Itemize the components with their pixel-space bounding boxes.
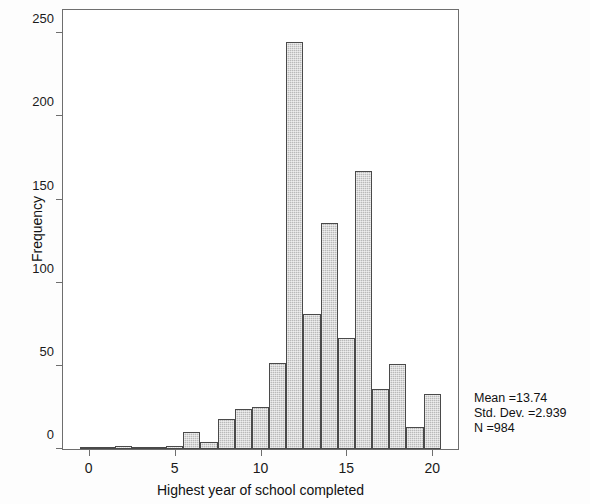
y-axis-title: Frequency bbox=[29, 196, 45, 262]
x-axis-tick-label: 10 bbox=[253, 460, 269, 476]
histogram-bar bbox=[97, 447, 114, 449]
histogram-bar bbox=[115, 446, 132, 449]
y-axis-tick-label: 150 bbox=[32, 177, 54, 192]
histogram-bar bbox=[372, 389, 389, 449]
histogram-bar bbox=[406, 427, 423, 449]
histogram-bar bbox=[132, 447, 149, 449]
histogram-figure: 05010015020025005101520 Highest year of … bbox=[0, 0, 590, 504]
histogram-bar bbox=[321, 223, 338, 449]
histogram-bar bbox=[252, 407, 269, 449]
x-axis-tick bbox=[89, 449, 90, 456]
histogram-bar bbox=[235, 409, 252, 449]
y-axis-tick-label: 0 bbox=[47, 427, 54, 442]
y-axis-tick bbox=[56, 115, 63, 116]
x-axis-tick-label: 0 bbox=[85, 460, 93, 476]
x-axis-tick bbox=[346, 449, 347, 456]
histogram-bar bbox=[424, 394, 441, 449]
y-axis-tick-label: 200 bbox=[32, 94, 54, 109]
histogram-bar bbox=[218, 419, 235, 449]
histogram-bar bbox=[149, 447, 166, 449]
x-axis-title: Highest year of school completed bbox=[62, 482, 459, 498]
histogram-bar bbox=[338, 338, 355, 449]
stat-n: N =984 bbox=[474, 421, 567, 436]
histogram-bar bbox=[269, 363, 286, 449]
histogram-bar bbox=[355, 171, 372, 449]
histogram-bar bbox=[303, 314, 320, 449]
stat-mean: Mean =13.74 bbox=[474, 391, 567, 406]
y-axis-tick-label: 50 bbox=[40, 343, 54, 358]
x-axis-tick bbox=[261, 449, 262, 456]
x-axis-tick-label: 20 bbox=[424, 460, 440, 476]
y-axis-tick bbox=[56, 32, 63, 33]
y-axis-tick bbox=[56, 282, 63, 283]
y-axis-tick bbox=[56, 365, 63, 366]
x-axis-tick-label: 5 bbox=[171, 460, 179, 476]
histogram-bar bbox=[389, 364, 406, 449]
x-axis-tick bbox=[432, 449, 433, 456]
x-axis-tick-label: 15 bbox=[339, 460, 355, 476]
bars-layer bbox=[63, 10, 458, 449]
y-axis-tick-label: 100 bbox=[32, 260, 54, 275]
histogram-bar bbox=[183, 432, 200, 449]
histogram-bar bbox=[200, 442, 217, 449]
statistics-annotation: Mean =13.74 Std. Dev. =2.939 N =984 bbox=[474, 391, 567, 436]
histogram-bar bbox=[286, 42, 303, 449]
y-axis-tick bbox=[56, 199, 63, 200]
stat-std-dev: Std. Dev. =2.939 bbox=[474, 406, 567, 421]
x-axis-tick bbox=[175, 449, 176, 456]
y-axis-tick bbox=[56, 448, 63, 449]
plot-frame: 05010015020025005101520 bbox=[62, 9, 459, 450]
y-axis-tick-label: 250 bbox=[32, 11, 54, 26]
